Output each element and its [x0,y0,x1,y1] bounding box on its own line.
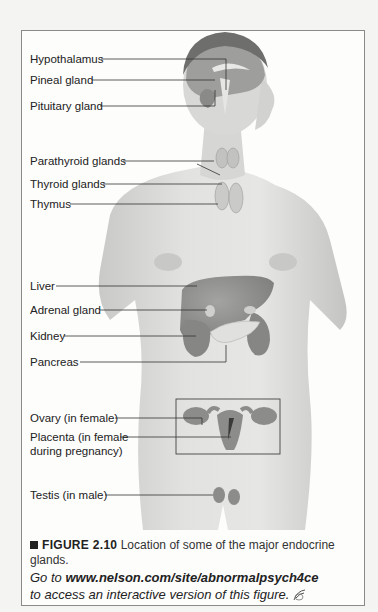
label-pineal-gland: Pineal gland [30,74,93,87]
label-ovary: Ovary (in female) [30,412,118,425]
interactive-link-line: Go to www.nelson.com/site/abnormalpsych4… [30,570,319,585]
label-thymus: Thymus [30,198,71,211]
interactive-link-suffix-line: to access an interactive version of this… [30,587,307,602]
label-thyroid-glands: Thyroid glands [30,178,105,191]
label-placenta-line1: Placenta (in female [30,431,128,444]
figure-caption: FIGURE 2.10 Location of some of the majo… [30,538,360,568]
label-hypothalamus: Hypothalamus [30,53,104,66]
label-parathyroid-glands: Parathyroid glands [30,155,126,168]
link-suffix: to access an interactive version of this… [30,587,289,602]
link-prefix: Go to [30,570,65,585]
label-testis: Testis (in male) [30,489,107,502]
figure-number: FIGURE 2.10 [42,538,117,552]
site-url-link[interactable]: www.nelson.com/site/abnormalpsych4ce [65,570,318,585]
label-adrenal-gland: Adrenal gland [30,304,101,317]
caption-square-icon [30,541,38,549]
label-kidney: Kidney [30,330,65,343]
label-pituitary-gland: Pituitary gland [30,100,103,113]
mouse-cursor-icon [293,589,307,601]
label-pancreas: Pancreas [30,356,79,369]
label-placenta-line2: during pregnancy) [30,445,123,458]
label-liver: Liver [30,280,55,293]
